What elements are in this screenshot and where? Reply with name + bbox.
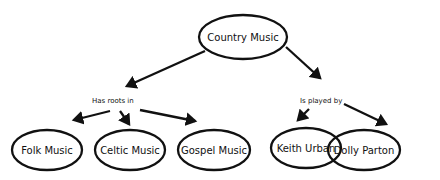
node-label: Country Music bbox=[207, 32, 278, 43]
node-country-music: Country Music bbox=[199, 15, 287, 59]
node-celtic-music: Celtic Music bbox=[95, 130, 165, 170]
node-label: Gospel Music bbox=[181, 145, 247, 156]
node-dolly-parton: Dolly Parton bbox=[328, 130, 400, 170]
relation-label-has-roots-in: Has roots in bbox=[92, 97, 134, 105]
node-gospel-music: Gospel Music bbox=[178, 130, 250, 170]
concept-map: Country Music Has roots in Is played by … bbox=[0, 0, 440, 180]
node-label: Celtic Music bbox=[100, 145, 160, 156]
node-label: Keith Urban bbox=[277, 143, 336, 154]
node-label: Dolly Parton bbox=[334, 145, 395, 156]
node-folk-music: Folk Music bbox=[12, 130, 82, 170]
relation-label-is-played-by: Is played by bbox=[300, 97, 342, 105]
node-label: Folk Music bbox=[21, 145, 73, 156]
